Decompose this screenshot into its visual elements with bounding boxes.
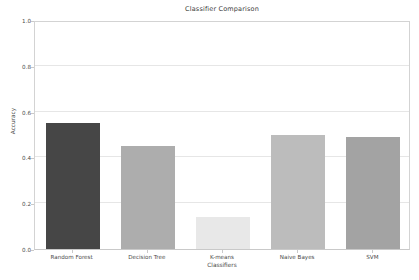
y-tick-label: 0.4 [5, 155, 31, 161]
y-tick-label: 0.6 [5, 110, 31, 116]
y-tick-label: 0.2 [5, 201, 31, 207]
bar-k-means [196, 217, 250, 249]
x-axis-label: Classifiers [34, 262, 410, 268]
y-axis-ticks: 0.00.20.40.60.81.0 [0, 21, 31, 250]
bar-decision-tree [121, 146, 175, 249]
chart-title: Classifier Comparison [34, 5, 410, 13]
bar-series [35, 22, 409, 249]
plot-area [34, 21, 410, 250]
x-tick-mark [72, 250, 73, 253]
x-tick-mark [147, 250, 148, 253]
x-tick-mark [372, 250, 373, 253]
bar-random-forest [46, 123, 100, 249]
y-tick-label: 1.0 [5, 18, 31, 24]
x-tick-label: Random Forest [51, 254, 93, 260]
chart-figure: Classifier Comparison Accuracy 0.00.20.4… [0, 0, 419, 280]
x-tick-label: Decision Tree [128, 254, 165, 260]
x-tick-mark [297, 250, 298, 253]
x-tick-mark [222, 250, 223, 253]
y-tick-label: 0.0 [5, 247, 31, 253]
y-tick-label: 0.8 [5, 64, 31, 70]
bar-svm [346, 137, 400, 249]
x-tick-label: Naive Bayes [280, 254, 315, 260]
x-tick-label: SVM [366, 254, 378, 260]
bar-naive-bayes [271, 135, 325, 250]
x-tick-label: K-means [210, 254, 234, 260]
